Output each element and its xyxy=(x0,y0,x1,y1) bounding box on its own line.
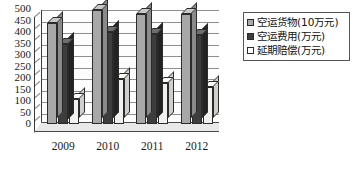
x-axis-tick-label: 2011 xyxy=(141,140,164,152)
legend-swatch-icon xyxy=(247,47,254,54)
y-axis-tick-label: 100 xyxy=(15,95,32,106)
y-axis-tick-label: 50 xyxy=(20,106,31,117)
y-axis-tick-label: 200 xyxy=(15,72,32,83)
legend-item-label: 空运费用(万元) xyxy=(257,31,325,42)
bar-side xyxy=(202,23,208,118)
legend-item[interactable]: 空运货物(10万元) xyxy=(247,15,346,29)
bar-group-container xyxy=(34,10,219,132)
y-axis-tick-label: 300 xyxy=(15,49,32,60)
bar-side xyxy=(79,87,85,118)
y-axis-tick-label: 0 xyxy=(26,118,32,129)
legend-item[interactable]: 延期赔偿(万元) xyxy=(247,43,346,57)
bar xyxy=(47,23,57,124)
bar-face xyxy=(92,10,102,124)
bar xyxy=(136,14,146,124)
chart-legend: 空运货物(10万元) 空运费用(万元) 延期赔偿(万元) xyxy=(243,12,350,61)
legend-item-label: 空运货物(10万元) xyxy=(257,17,339,28)
y-axis-tick-label: 250 xyxy=(15,60,32,71)
bar-side xyxy=(68,32,74,119)
legend-swatch-icon xyxy=(247,33,254,40)
bar-side xyxy=(146,2,152,118)
bar-face xyxy=(136,14,146,124)
bar xyxy=(181,14,191,124)
x-axis-tick-label: 2010 xyxy=(96,140,119,152)
legend-item-label: 延期赔偿(万元) xyxy=(257,45,325,56)
y-axis: 050100150200250300350400450500 xyxy=(0,8,34,133)
y-axis-tick-label: 150 xyxy=(15,83,32,94)
bar xyxy=(92,10,102,124)
y-axis-tick-label: 400 xyxy=(15,26,32,37)
bar-chart: 050100150200250300350400450500 200920102… xyxy=(0,0,356,174)
bar-side xyxy=(102,0,108,118)
bar-side xyxy=(157,22,163,118)
x-axis: 2009201020112012 xyxy=(34,140,219,158)
bar-side xyxy=(113,20,119,118)
y-axis-tick-label: 350 xyxy=(15,37,32,48)
y-axis-tick-label: 500 xyxy=(15,3,32,14)
bar-side xyxy=(57,11,63,118)
x-axis-tick-label: 2009 xyxy=(52,140,75,152)
legend-swatch-icon xyxy=(247,19,254,26)
legend-item[interactable]: 空运费用(万元) xyxy=(247,29,346,43)
x-axis-tick-label: 2012 xyxy=(185,140,208,152)
bar-face xyxy=(47,23,57,124)
bar-face xyxy=(181,14,191,124)
y-axis-tick-label: 450 xyxy=(15,14,32,25)
bar-side xyxy=(191,2,197,118)
plot-area xyxy=(34,10,219,132)
